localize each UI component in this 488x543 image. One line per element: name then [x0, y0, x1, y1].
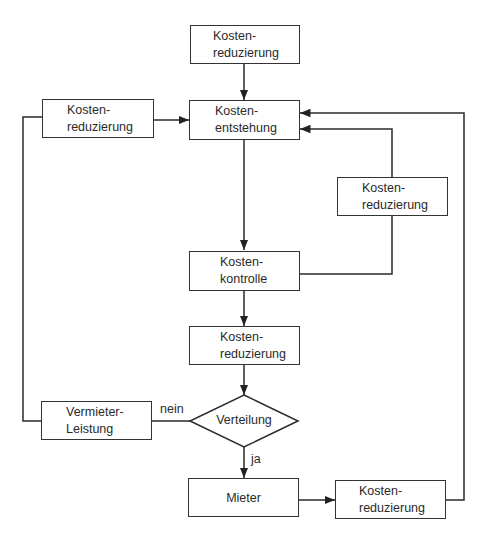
node-label: Mieter	[189, 490, 298, 507]
edge-label-no: nein	[160, 402, 184, 416]
node-left-cost-reduction: Kosten- reduzierung	[42, 99, 154, 138]
node-cost-control: Kosten- kontrolle	[189, 251, 300, 291]
node-label-line2: Leistung	[66, 421, 151, 438]
distribution-decision-label: Verteilung	[200, 413, 288, 427]
node-cost-origin: Kosten- entstehung	[189, 100, 300, 140]
node-top-cost-reduction: Kosten- reduzierung	[190, 25, 300, 64]
node-label-line1: Kosten-	[220, 329, 299, 346]
node-tenant: Mieter	[188, 478, 299, 517]
edge-bottom-reduction-to-origin	[300, 113, 464, 500]
node-label-line2: kontrolle	[220, 271, 299, 288]
node-bottom-cost-reduction: Kosten- reduzierung	[335, 480, 446, 519]
node-label-line1: Kosten-	[220, 254, 299, 271]
edge-control-to-right-reduction	[300, 216, 392, 274]
node-mid-cost-reduction: Kosten- reduzierung	[189, 326, 300, 365]
node-right-cost-reduction: Kosten- reduzierung	[337, 177, 448, 216]
edge-label-yes: ja	[251, 452, 261, 466]
node-label-line2: reduzierung	[362, 197, 447, 214]
node-label-line1: Kosten-	[215, 103, 299, 120]
node-label-line2: reduzierung	[220, 346, 299, 363]
node-label-line2: reduzierung	[67, 119, 153, 136]
node-label-line1: Kosten-	[359, 483, 445, 500]
node-label-line2: reduzierung	[213, 45, 299, 62]
node-label-line1: Kosten-	[67, 102, 153, 119]
edge-right-reduction-to-origin	[300, 129, 392, 177]
node-label-line1: Kosten-	[213, 28, 299, 45]
node-label-line1: Vermieter-	[66, 404, 151, 421]
node-label-line2: entstehung	[215, 120, 299, 137]
node-label-line2: reduzierung	[359, 500, 445, 517]
node-landlord-service: Vermieter- Leistung	[41, 401, 152, 440]
node-label-line1: Kosten-	[362, 180, 447, 197]
edge-landlord-to-left-reduction	[23, 117, 42, 421]
